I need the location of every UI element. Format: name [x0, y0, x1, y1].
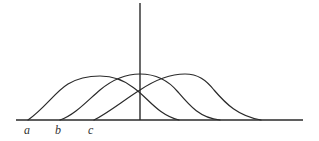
label-c: c: [88, 124, 93, 136]
bell-curves-diagram: a b c: [0, 0, 319, 141]
curve-a: [28, 76, 179, 120]
diagram-canvas: [0, 0, 319, 141]
label-b: b: [55, 124, 61, 136]
curve-c: [94, 74, 261, 120]
label-a: a: [24, 124, 30, 136]
